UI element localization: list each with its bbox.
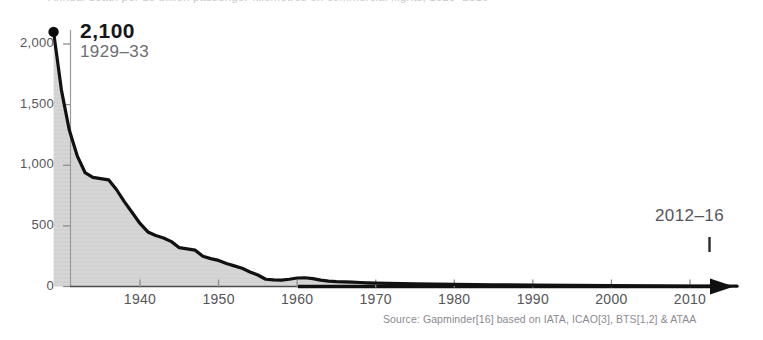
peak-period-label: 1929–33 bbox=[80, 42, 149, 62]
x-axis-tick-label: 2000 bbox=[581, 291, 641, 307]
end-period-label: 2012–16 bbox=[655, 206, 724, 226]
x-axis-tick-label: 1950 bbox=[189, 291, 249, 307]
x-axis-tick-label: 1990 bbox=[503, 291, 563, 307]
y-axis-tick-label: 1,000 bbox=[0, 156, 54, 171]
x-axis-tick-label: 1960 bbox=[267, 291, 327, 307]
source-citation: Source: Gapminder[16] based on IATA, ICA… bbox=[383, 313, 696, 325]
y-axis-tick-label: 500 bbox=[0, 217, 54, 232]
x-axis-tick-label: 2010 bbox=[660, 291, 720, 307]
x-axis-tick-label: 1940 bbox=[110, 291, 170, 307]
y-axis-tick-label: 1,500 bbox=[0, 96, 54, 111]
x-axis-tick-label: 1980 bbox=[424, 291, 484, 307]
peak-value-label: 2,100 bbox=[80, 19, 135, 43]
y-axis-tick-label: 2,000 bbox=[0, 35, 54, 50]
area-fill bbox=[54, 32, 738, 287]
y-axis-tick-label: 0 bbox=[0, 278, 54, 293]
chart-figure: Annual death per 10 billion passenger-ki… bbox=[0, 0, 763, 340]
x-axis-tick-label: 1970 bbox=[346, 291, 406, 307]
